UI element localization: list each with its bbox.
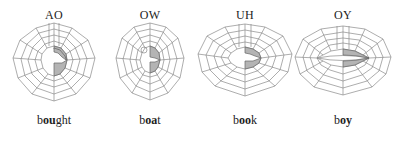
lip-mesh-oy (293, 20, 393, 105)
word-vowel: ou (43, 113, 56, 127)
example-word: bought (4, 113, 104, 128)
lip-mesh-ao (4, 20, 104, 105)
word-suffix: t (157, 113, 160, 127)
word-suffix: k (251, 113, 257, 127)
example-word: boat (100, 113, 200, 128)
lip-mesh-uh (195, 20, 295, 105)
lip-mesh-ow (100, 20, 200, 105)
word-vowel: oa (145, 113, 157, 127)
word-vowel: oo (239, 113, 251, 127)
word-vowel: oy (340, 113, 352, 127)
panel-ow: OW boat (100, 0, 200, 143)
panel-oy: OY boy (293, 0, 393, 143)
word-suffix: ght (56, 113, 71, 127)
example-word: book (195, 113, 295, 128)
example-word: boy (293, 113, 393, 128)
panel-uh: UH book (195, 0, 295, 143)
panel-ao: AO bought (4, 0, 104, 143)
